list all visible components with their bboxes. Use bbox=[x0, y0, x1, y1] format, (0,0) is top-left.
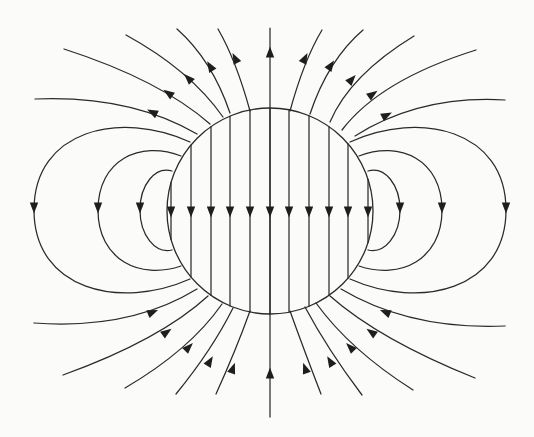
top-axis-arrow-icon bbox=[266, 47, 274, 58]
top-left-1-arrow-icon bbox=[233, 53, 242, 65]
field-line-top-right-3 bbox=[330, 36, 414, 122]
bottom-right-3-arrow-icon bbox=[346, 343, 357, 354]
interior-6-arrow-icon bbox=[285, 207, 293, 218]
field-line-bottom-left-1 bbox=[216, 311, 250, 394]
field-lines-svg bbox=[0, 0, 534, 437]
interior-8-arrow-icon bbox=[325, 207, 333, 218]
field-line-top-left-3 bbox=[126, 35, 223, 117]
bottom-left-3-arrow-icon bbox=[182, 343, 193, 354]
bottom-left-5-arrow-icon bbox=[146, 310, 158, 318]
field-line-bottom-right-4 bbox=[330, 296, 475, 378]
left-outer-arrow-icon bbox=[30, 203, 38, 214]
field-line-bottom-left-5 bbox=[34, 289, 197, 324]
field-line-top-right-4 bbox=[342, 50, 476, 130]
right-outer-arrow-icon bbox=[502, 203, 510, 214]
field-line-top-left-4 bbox=[64, 49, 210, 124]
left-inner-arrow-icon bbox=[136, 203, 144, 214]
top-right-4-arrow-icon bbox=[366, 91, 377, 101]
field-line-top-right-5 bbox=[355, 99, 505, 136]
top-left-2-arrow-icon bbox=[207, 61, 216, 73]
field-line-bottom-right-1 bbox=[290, 311, 321, 394]
top-right-2-arrow-icon bbox=[324, 60, 334, 71]
interior-7-arrow-icon bbox=[305, 207, 313, 218]
magnetized-sphere-diagram: Field lines of a uniformly magnetized sp… bbox=[0, 0, 534, 437]
top-left-5-arrow-icon bbox=[147, 110, 159, 119]
interior-3-arrow-icon bbox=[226, 207, 234, 218]
bottom-left-2-arrow-icon bbox=[204, 356, 213, 368]
left-middle-arrow-icon bbox=[94, 203, 102, 214]
right-inner-arrow-icon bbox=[396, 203, 404, 214]
bottom-axis-arrow-icon bbox=[266, 368, 274, 379]
field-line-bottom-right-3 bbox=[316, 303, 413, 390]
interior-2-arrow-icon bbox=[207, 207, 215, 218]
field-line-top-right-2 bbox=[310, 30, 363, 114]
field-line-bottom-left-4 bbox=[63, 296, 208, 375]
field-line-bottom-left-2 bbox=[176, 308, 233, 394]
interior-1-arrow-icon bbox=[187, 207, 195, 218]
interior-5-arrow-icon bbox=[266, 207, 274, 218]
field-line-bottom-left-3 bbox=[125, 304, 222, 388]
interior-4-arrow-icon bbox=[246, 207, 254, 218]
right-middle-arrow-icon bbox=[438, 203, 446, 214]
top-right-1-arrow-icon bbox=[299, 53, 308, 65]
interior-0-arrow-icon bbox=[167, 207, 175, 218]
field-line-bottom-right-5 bbox=[341, 289, 505, 326]
field-line-top-left-2 bbox=[177, 29, 230, 113]
interior-10-arrow-icon bbox=[364, 207, 372, 218]
interior-9-arrow-icon bbox=[344, 207, 352, 218]
field-line-top-left-1 bbox=[218, 29, 250, 111]
field-line-top-left-5 bbox=[35, 99, 197, 134]
field-line-top-right-1 bbox=[290, 30, 322, 111]
bottom-right-5-arrow-icon bbox=[380, 310, 392, 318]
top-left-4-arrow-icon bbox=[163, 90, 174, 100]
